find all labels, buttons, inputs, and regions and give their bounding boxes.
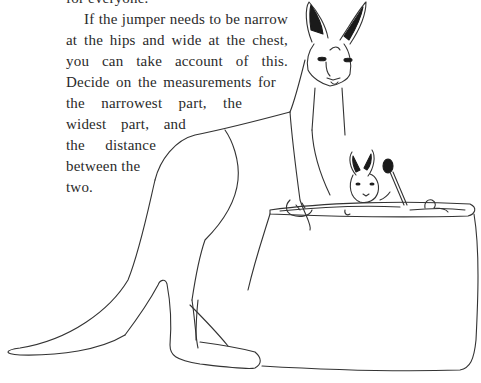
rattle-icon — [383, 159, 407, 205]
kangaroo-body-icon — [8, 60, 345, 369]
kangaroo-head-icon — [307, 44, 352, 86]
pouch-bag-icon — [248, 202, 478, 371]
kangaroo-ears-icon — [306, 2, 366, 44]
duck-toy-icon — [425, 200, 448, 212]
book-page: for everyone. If the jumper needs to be … — [0, 0, 481, 383]
kangaroo-illustration — [0, 0, 481, 383]
joey-icon — [345, 150, 390, 215]
